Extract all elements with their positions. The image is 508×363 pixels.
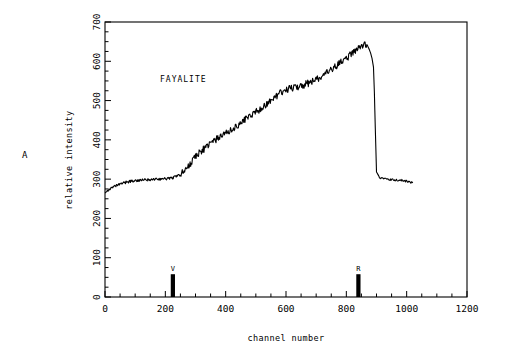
- channel-marker-label: R: [356, 265, 361, 273]
- spectrum-trace: [105, 42, 413, 193]
- x-tick-label: 1200: [456, 303, 479, 314]
- y-tick-label: 400: [91, 131, 102, 148]
- y-tick-label: 200: [91, 210, 102, 227]
- y-axis-ticks: [105, 22, 111, 297]
- channel-marker-bar: [171, 274, 175, 297]
- y-tick-label: 100: [91, 249, 102, 266]
- figure-container: A 020040060080010001200 0100200300400500…: [0, 0, 508, 363]
- spectrum-chart: 020040060080010001200 010020030040050060…: [0, 0, 508, 363]
- panel-label: A: [22, 150, 28, 160]
- y-axis-title: relative intensity: [64, 110, 74, 209]
- channel-markers: VR: [171, 265, 362, 297]
- x-tick-label: 1000: [395, 303, 418, 314]
- y-tick-label: 0: [91, 294, 102, 300]
- y-tick-label: 500: [91, 92, 102, 109]
- x-tick-label: 800: [338, 303, 355, 314]
- y-tick-label: 300: [91, 170, 102, 187]
- x-axis-ticks: [105, 291, 467, 297]
- x-tick-label: 0: [102, 303, 108, 314]
- plot-frame: [105, 22, 467, 297]
- y-axis-tick-labels: 0100200300400500600700: [91, 13, 102, 300]
- channel-marker-bar: [356, 274, 360, 297]
- channel-marker-label: V: [171, 265, 176, 273]
- y-tick-label: 600: [91, 52, 102, 69]
- x-tick-label: 600: [277, 303, 294, 314]
- x-tick-label: 400: [217, 303, 234, 314]
- x-tick-label: 200: [157, 303, 174, 314]
- x-axis-title: channel number: [247, 333, 324, 343]
- data-series-line: [105, 42, 413, 193]
- y-tick-label: 700: [91, 13, 102, 30]
- x-axis-tick-labels: 020040060080010001200: [102, 303, 479, 314]
- series-annotation-fayalite: FAYALITE: [160, 75, 207, 84]
